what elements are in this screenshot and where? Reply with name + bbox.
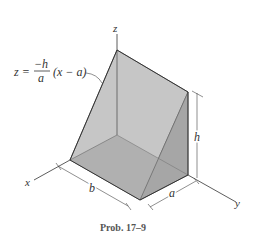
y-axis-label: y	[234, 197, 240, 209]
equation-denominator: a	[38, 71, 44, 85]
dimension-a: a	[169, 186, 175, 200]
equation-numerator: −h	[34, 57, 48, 71]
dimension-h: h	[194, 130, 200, 144]
equation-rhs: (x − a)	[53, 65, 86, 79]
dimension-b: b	[89, 181, 95, 195]
z-axis-label: z	[112, 22, 118, 34]
leader-line	[86, 73, 102, 83]
wedge-diagram: z x y b a h z = −h a (x − a) Prob. 17–9	[0, 0, 255, 249]
equation-lhs: z =	[13, 65, 30, 79]
x-axis-label: x	[24, 176, 30, 188]
figure-caption: Prob. 17–9	[100, 222, 146, 233]
